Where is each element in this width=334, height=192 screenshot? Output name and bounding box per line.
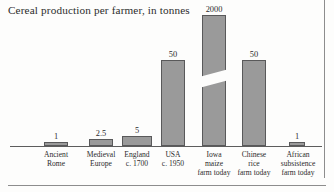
bar-iowa-maize-farm-today: 2000 xyxy=(202,15,226,146)
bar-rect-chinese-rice-farm-today xyxy=(242,60,266,146)
bar-value-label-ancient-rome: 1 xyxy=(54,132,58,141)
bar-value-label-england-c-1700: 5 xyxy=(135,126,139,135)
bar-category-label-line: subsistence xyxy=(268,159,328,168)
plot-area: 12.55502000501 AncientRomeMedievalEurope… xyxy=(0,0,334,192)
bar-value-label-usa-c-1950: 50 xyxy=(169,50,177,59)
bar-rect-usa-c-1950 xyxy=(161,60,185,146)
bar-rect-medieval-europe xyxy=(89,139,113,146)
page-frame-right-rule xyxy=(324,0,325,178)
bar-rect-iowa-maize-farm-today xyxy=(202,15,226,146)
page-frame-bottom-rule xyxy=(8,185,326,186)
bar-usa-c-1950: 50 xyxy=(161,60,185,146)
bar-value-label-african-subsistence-farm-today: 1 xyxy=(295,132,299,141)
chart-page: Cereal production per farmer, in tonnes … xyxy=(0,0,334,192)
baseline-axis xyxy=(10,146,322,147)
bar-england-c-1700: 5 xyxy=(122,136,152,146)
bar-category-label-african-subsistence-farm-today: Africansubsistencefarm today xyxy=(268,150,328,177)
bar-value-label-iowa-maize-farm-today: 2000 xyxy=(206,5,223,14)
bar-medieval-europe: 2.5 xyxy=(89,139,113,146)
bar-ancient-rome: 1 xyxy=(44,142,68,146)
bar-value-label-medieval-europe: 2.5 xyxy=(96,129,106,138)
bar-rect-african-subsistence-farm-today xyxy=(289,142,305,146)
bar-rect-ancient-rome xyxy=(44,142,68,146)
bar-category-label-line: African xyxy=(268,150,328,159)
bar-rect-england-c-1700 xyxy=(122,136,152,146)
bar-chinese-rice-farm-today: 50 xyxy=(242,60,266,146)
bar-value-label-chinese-rice-farm-today: 50 xyxy=(250,50,258,59)
bar-category-label-line: farm today xyxy=(268,168,328,177)
bar-african-subsistence-farm-today: 1 xyxy=(289,142,305,146)
